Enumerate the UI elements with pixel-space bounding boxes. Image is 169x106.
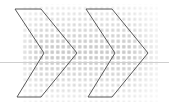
halftone-dot-field [0, 0, 169, 106]
chevron-arrows-illustration [0, 0, 169, 106]
graphic-canvas [0, 0, 169, 106]
